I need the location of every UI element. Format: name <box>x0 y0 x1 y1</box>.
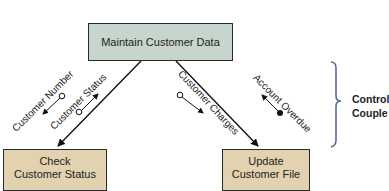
module-label-line1: Check <box>14 155 96 168</box>
module-maintain-customer-data: Maintain Customer Data <box>88 23 233 61</box>
legend-line1: Control <box>352 92 389 106</box>
module-label-line2: Customer Status <box>14 168 96 181</box>
module-check-customer-status: Check Customer Status <box>3 149 107 191</box>
module-label-line2: Customer File <box>232 168 300 181</box>
module-label: Maintain Customer Data <box>101 36 220 49</box>
module-update-customer-file: Update Customer File <box>222 149 310 191</box>
module-label-line1: Update <box>232 155 300 168</box>
legend-line2: Couple <box>352 106 389 120</box>
legend-control-couple: Control Couple <box>352 92 389 120</box>
brace-icon <box>331 62 341 147</box>
